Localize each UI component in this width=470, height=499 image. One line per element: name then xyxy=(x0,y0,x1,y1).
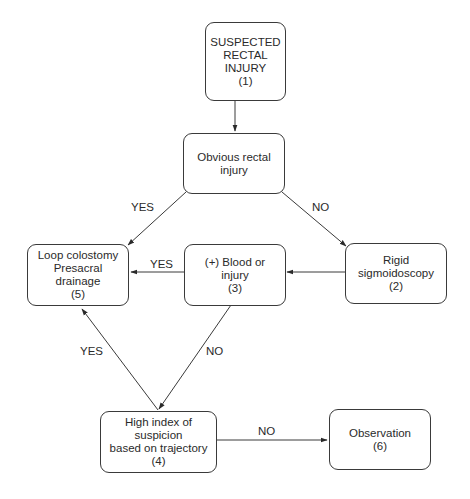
node-text: Observation xyxy=(349,427,411,440)
node-text: (3) xyxy=(205,282,265,295)
edge-label-obvious-no: NO xyxy=(312,201,329,213)
edge-3-to-4 xyxy=(159,305,231,409)
node-high-index-of-suspicion: High index of suspicion based on traject… xyxy=(100,411,217,473)
node-text: sigmoidoscopy xyxy=(358,267,434,280)
node-obvious-rectal-injury: Obvious rectal injury xyxy=(183,133,285,194)
edge-label-3-no: NO xyxy=(206,345,223,357)
node-text: based on trajectory xyxy=(101,442,216,455)
node-text: High index of suspicion xyxy=(101,416,216,442)
node-text: Loop colostomy xyxy=(38,249,119,262)
node-observation: Observation (6) xyxy=(329,409,431,470)
node-text: (+) Blood or xyxy=(205,256,265,269)
node-text: Presacral xyxy=(38,262,119,275)
node-text: injury xyxy=(205,269,265,282)
edge-label-4-yes: YES xyxy=(80,345,103,357)
node-text: RECTAL xyxy=(210,49,280,62)
node-text: SUSPECTED xyxy=(210,36,280,49)
node-text: (6) xyxy=(349,440,411,453)
edge-label-4-no: NO xyxy=(258,425,275,437)
edge-4-to-5 xyxy=(82,309,158,410)
node-blood-or-injury: (+) Blood or injury (3) xyxy=(184,244,286,306)
node-text: Rigid xyxy=(358,254,434,267)
node-loop-colostomy: Loop colostomy Presacral drainage (5) xyxy=(27,244,129,306)
node-text: (2) xyxy=(358,280,434,293)
node-text: (4) xyxy=(101,455,216,468)
edge-label-3-yes: YES xyxy=(150,258,173,270)
node-text: Obvious rectal xyxy=(197,151,271,164)
node-text: INJURY xyxy=(210,62,280,75)
node-rigid-sigmoidoscopy: Rigid sigmoidoscopy (2) xyxy=(345,243,447,304)
node-suspected-rectal-injury: SUSPECTED RECTAL INJURY (1) xyxy=(205,22,286,101)
node-text: (1) xyxy=(210,75,280,88)
edge-obvious-to-5 xyxy=(128,192,186,245)
node-text: (5) xyxy=(38,288,119,301)
node-text: drainage xyxy=(38,275,119,288)
node-text: injury xyxy=(197,164,271,177)
edge-label-obvious-yes: YES xyxy=(131,201,154,213)
